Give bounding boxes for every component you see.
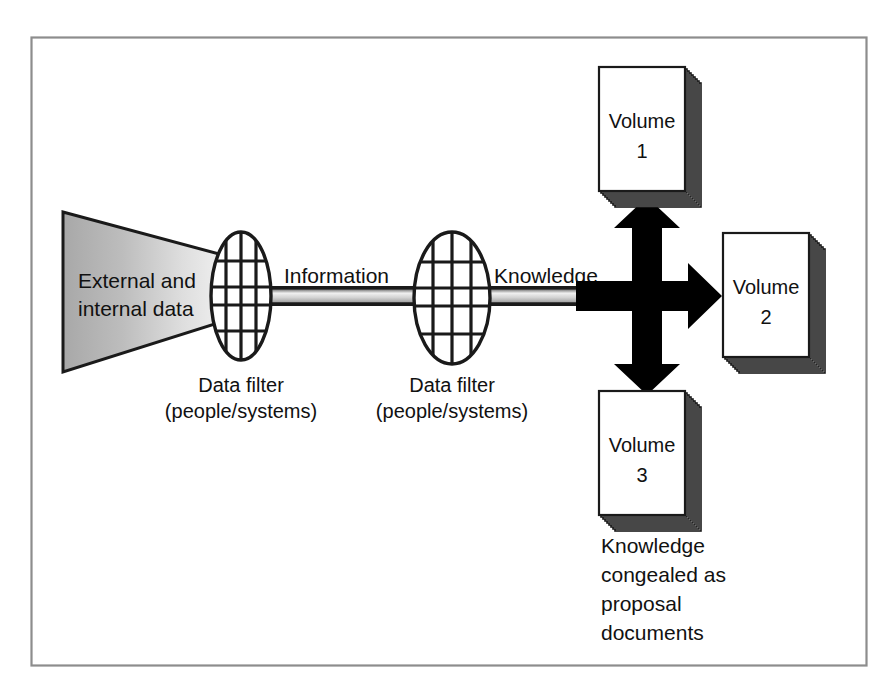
funnel-label-line2: internal data bbox=[78, 297, 194, 320]
volume-3-label-line1: Volume bbox=[609, 434, 676, 456]
volume-3-stack: Volume 3 bbox=[599, 391, 701, 531]
volume-3-label-line2: 3 bbox=[636, 464, 647, 486]
caption-line-4: documents bbox=[601, 621, 704, 644]
three-way-arrow-hub bbox=[628, 281, 666, 311]
caption-line-1: Knowledge bbox=[601, 534, 705, 557]
data-filter-1-title: Data filter bbox=[198, 374, 284, 396]
data-filter-2-title: Data filter bbox=[409, 374, 495, 396]
volume-1-stack: Volume 1 bbox=[599, 67, 701, 207]
data-filter-2-subtitle: (people/systems) bbox=[376, 400, 528, 422]
knowledge-flow-diagram: External and internal data Data filter bbox=[0, 0, 889, 693]
funnel-label-line1: External and bbox=[78, 269, 196, 292]
volume-2-stack: Volume 2 bbox=[723, 233, 825, 373]
caption-line-2: congealed as bbox=[601, 563, 726, 586]
volume-2-label-line2: 2 bbox=[760, 306, 771, 328]
data-filter-1-subtitle: (people/systems) bbox=[165, 400, 317, 422]
information-label: Information bbox=[284, 264, 389, 287]
volume-2-label-line1: Volume bbox=[733, 276, 800, 298]
volume-1-label-line1: Volume bbox=[609, 110, 676, 132]
figure-root: External and internal data Data filter bbox=[0, 0, 889, 693]
caption-line-3: proposal bbox=[601, 592, 682, 615]
volume-1-label-line2: 1 bbox=[636, 140, 647, 162]
